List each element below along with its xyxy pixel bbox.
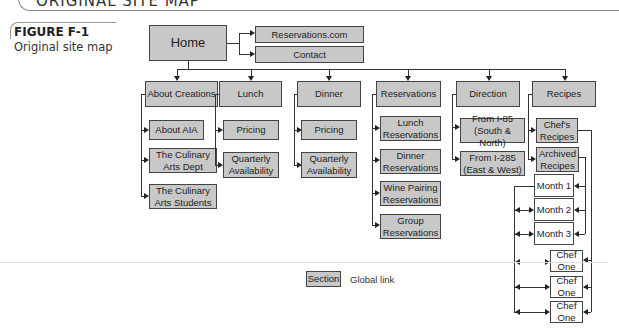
arrow-left-icon (515, 309, 520, 315)
node-global-link: Reservations.com (255, 26, 364, 43)
node-page: Wine Pairing Reservations (380, 181, 441, 206)
node-page: Lunch Reservations (380, 116, 441, 141)
node-section-direction: Direction (456, 81, 520, 107)
connector (514, 186, 534, 187)
node-page: The Culinary Arts Dept (149, 148, 217, 173)
connector (578, 130, 591, 131)
node-section-reservations: Reservations (376, 81, 441, 107)
figure-caption: Original site map (14, 40, 113, 54)
arrow-right-icon (529, 231, 534, 237)
arrow-left-icon (574, 207, 579, 213)
connector (239, 33, 240, 54)
node-page: Group Reservations (380, 214, 441, 239)
node-section-lunch: Lunch (219, 81, 282, 107)
node-page: Pricing (223, 120, 279, 140)
page-title: ORIGINAL SITE MAP (36, 0, 200, 10)
node-section-about-creations: About Creations (145, 81, 218, 107)
arrow-left-icon (583, 284, 588, 290)
arrow-left-icon (515, 207, 520, 213)
arrow-left-icon (574, 183, 579, 189)
node-page-month: Month 2 (534, 198, 574, 221)
figure-label: FIGURE F-1 (14, 25, 89, 39)
node-global-link: Contact (255, 46, 364, 63)
node-section-dinner: Dinner (297, 81, 361, 107)
connector (141, 94, 142, 196)
arrow-right-icon (545, 309, 550, 315)
node-page: From I-85 (South & North) (460, 118, 525, 143)
node-page-chef: Chef One (550, 301, 583, 323)
arrow-left-icon (515, 284, 520, 290)
node-page-archived-recipes: Archived Recipes (536, 147, 579, 172)
connector (591, 130, 592, 312)
connector (227, 43, 239, 44)
node-page-month: Month 3 (534, 222, 574, 245)
connector (514, 186, 515, 312)
legend-global-link-label: Global link (350, 274, 394, 285)
node-page: Quarterly Availability (223, 152, 279, 178)
connector (452, 94, 456, 95)
node-page: From I-285 (East & West) (460, 151, 525, 176)
node-section-recipes: Recipes (532, 81, 596, 107)
node-page: About AIA (149, 120, 204, 140)
arrow-right-icon (545, 284, 550, 290)
connector (141, 94, 145, 95)
node-page: Quarterly Availability (301, 152, 357, 178)
node-home: Home (149, 25, 227, 61)
arrow-left-icon (574, 231, 579, 237)
node-page-chefs-recipes: Chef's Recipes (536, 118, 578, 143)
connector (528, 94, 532, 95)
connector (528, 94, 529, 159)
connector (215, 94, 219, 95)
divider (0, 262, 608, 263)
node-page-chef: Chef One (550, 276, 583, 298)
connector (177, 69, 566, 70)
connector (372, 94, 376, 95)
connector (294, 94, 297, 95)
node-page: Dinner Reservations (380, 149, 441, 174)
node-page: Pricing (301, 120, 357, 140)
node-page-month: Month 1 (534, 174, 574, 197)
node-page: The Culinary Arts Students (149, 184, 217, 209)
connector (585, 157, 586, 234)
arrow-right-icon (529, 207, 534, 213)
arrow-left-icon (583, 309, 588, 315)
arrow-left-icon (515, 231, 520, 237)
node-page-chef: Chef One (550, 250, 583, 272)
legend-section-swatch: Section (306, 271, 341, 287)
